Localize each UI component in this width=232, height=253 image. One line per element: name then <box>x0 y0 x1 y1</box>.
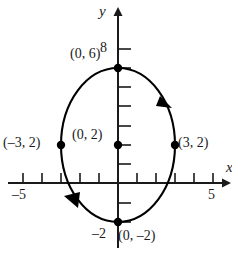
point-label-0-neg2: (0, –2) <box>118 229 155 243</box>
point-dot-0-neg2 <box>114 218 122 226</box>
point-label-3-2: (3, 2) <box>178 136 208 150</box>
x-tick-label-5: 5 <box>208 188 215 202</box>
x-axis-arrowhead <box>222 179 231 188</box>
point-label-0-6: (0, 6) <box>70 47 100 61</box>
y-axis-ticks <box>118 49 131 222</box>
y-tick-label-neg2: –2 <box>92 227 106 241</box>
y-axis-label: y <box>99 4 106 19</box>
point-dot-0-6 <box>114 64 122 72</box>
x-tick-label-neg5: –5 <box>12 188 26 202</box>
point-label-neg3-2: (–3, 2) <box>3 136 40 150</box>
y-axis-arrowhead <box>114 7 123 16</box>
point-label-0-2: (0, 2) <box>72 128 102 142</box>
plot-canvas <box>0 0 232 253</box>
point-dot-0-2 <box>114 141 122 149</box>
coordinate-plot-figure: y x 8 –2 –5 5 (0, 6) (–3, 2) (0, 2) (3, … <box>0 0 232 253</box>
direction-arrow-lower-left <box>64 192 80 208</box>
point-dot-neg3-2 <box>57 141 65 149</box>
y-tick-label-8: 8 <box>100 41 107 55</box>
x-axis-label: x <box>226 160 232 175</box>
